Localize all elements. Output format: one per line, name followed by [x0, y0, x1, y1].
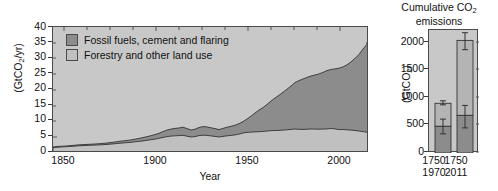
timeseries-xtick-1950: 1950 [235, 155, 258, 166]
bar-ytick-500: 500 [378, 118, 424, 128]
timeseries-xtick-1850: 1850 [51, 155, 74, 166]
bar-inner-ticks [476, 42, 479, 152]
cumulative-emissions-panel: Cumulative CO2 emissions (GtCO2) 2000 15… [372, 0, 498, 191]
bar-category-1750-2011: 1750 2011 [436, 154, 476, 178]
timeseries-x-axis-label: Year [52, 170, 368, 182]
timeseries-ytick-25: 25 [0, 67, 46, 77]
timeseries-ytick-0: 0 [0, 145, 46, 155]
legend-item-forestry[interactable]: Forestry and other land use [66, 48, 229, 61]
bar-group-1750-2011[interactable] [457, 33, 473, 153]
bar-y-axis-label: (GtCO2) [400, 44, 412, 124]
timeseries-ytick-30: 30 [0, 51, 46, 61]
bar-ytick-2000: 2000 [378, 36, 424, 46]
annual-emissions-panel: (GtCO2/yr) 40 35 30 25 20 15 10 5 0 [0, 0, 372, 191]
timeseries-ytick-5: 5 [0, 129, 46, 139]
timeseries-xtick-1900: 1900 [143, 155, 166, 166]
timeseries-legend: Fossil fuels, cement and flaring Forestr… [66, 33, 229, 61]
timeseries-xtick-2000: 2000 [327, 155, 350, 166]
bar-ytick-1000: 1000 [378, 91, 424, 101]
legend-label-fossil-fuels: Fossil fuels, cement and flaring [84, 34, 229, 46]
bar-plot-area [428, 29, 478, 152]
bar-ytick-1500: 1500 [378, 63, 424, 73]
legend-swatch-forestry [66, 49, 78, 61]
bar-segment-landuse-2011 [457, 40, 473, 115]
bar-group-1750-1970[interactable] [435, 101, 451, 153]
bar-chart-title: Cumulative CO2 emissions [380, 1, 498, 28]
timeseries-ytick-20: 20 [0, 82, 46, 92]
legend-swatch-fossil-fuels [66, 34, 78, 46]
legend-label-forestry: Forestry and other land use [84, 49, 212, 61]
timeseries-ytick-15: 15 [0, 98, 46, 108]
legend-item-fossil-fuels[interactable]: Fossil fuels, cement and flaring [66, 33, 229, 46]
timeseries-ytick-10: 10 [0, 113, 46, 123]
timeseries-plot-area: Fossil fuels, cement and flaring Forestr… [52, 26, 368, 152]
timeseries-ytick-40: 40 [0, 21, 46, 31]
timeseries-ytick-35: 35 [0, 36, 46, 46]
figure-container: (GtCO2/yr) 40 35 30 25 20 15 10 5 0 [0, 0, 498, 191]
bar-svg [429, 30, 479, 153]
